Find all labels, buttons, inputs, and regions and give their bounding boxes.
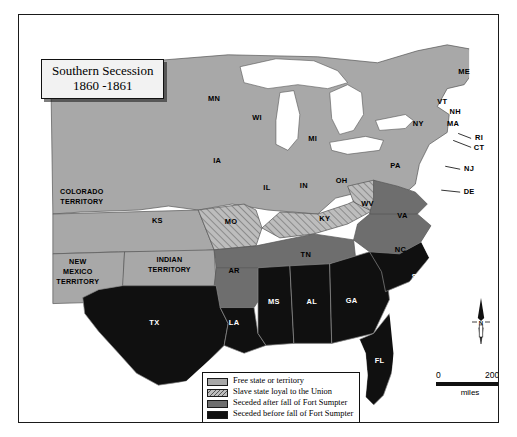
- state-label-tx: TX: [149, 318, 159, 327]
- state-label-sc: SC: [412, 272, 423, 281]
- state-label-pa: PA: [390, 161, 401, 170]
- state-label-vt: VT: [437, 97, 447, 106]
- state-label-tn: TN: [301, 250, 312, 259]
- state-label-va: VA: [397, 211, 408, 220]
- map-figure: MNWIMIIAILINOHPANYMEVTNHMARICTNJDEKS MOK…: [0, 0, 517, 437]
- legend-item-seceded-before: Seceded before fall of Fort Sumpter: [207, 409, 353, 420]
- legend-swatch-free-icon: [207, 378, 228, 386]
- legend-item-loyal: Slave state loyal to the Union: [207, 387, 353, 398]
- state-label-wv: WV: [361, 199, 374, 208]
- legend-item-seceded-after: Seceded after fall of Fort Sumpter: [207, 398, 353, 409]
- map-legend: Free state or territory Slave state loya…: [202, 372, 360, 423]
- cartography-credit: Rutgers Cartography 2000: [45, 408, 132, 415]
- compass-rose-icon: N: [470, 298, 492, 344]
- state-label-in: IN: [300, 181, 308, 190]
- scale-bar-line: [436, 382, 499, 386]
- state-label-ga: GA: [346, 296, 358, 305]
- scale-bar: 0 200 miles: [436, 370, 499, 397]
- scale-min-label: 0: [436, 370, 441, 380]
- legend-label-loyal: Slave state loyal to the Union: [233, 388, 332, 396]
- map-title-box: Southern Secession 1860 -1861: [41, 59, 164, 99]
- legend-swatch-loyal-icon: [207, 389, 228, 397]
- state-label-il: IL: [263, 183, 270, 192]
- legend-item-free: Free state or territory: [207, 376, 353, 387]
- state-label-ky: KY: [319, 214, 330, 223]
- state-label-al: AL: [307, 297, 318, 306]
- state-label-nc: NC: [395, 245, 407, 254]
- legend-label-seceded-after: Seceded after fall of Fort Sumpter: [233, 399, 347, 407]
- region-mississippi: [258, 266, 294, 346]
- map-title-line2: 1860 -1861: [52, 79, 153, 94]
- legend-swatch-seceded-before-icon: [207, 411, 228, 419]
- legend-label-free: Free state or territory: [233, 377, 304, 385]
- compass-north-label: N: [479, 320, 483, 326]
- state-label-mo: MO: [225, 217, 238, 226]
- region-free-plains: [53, 210, 214, 254]
- state-label-ar: AR: [228, 266, 240, 275]
- state-label-wi: WI: [252, 113, 262, 122]
- state-label-de: DE: [464, 187, 475, 196]
- state-label-ri: RI: [475, 133, 483, 142]
- map-frame: MNWIMIIAILINOHPANYMEVTNHMARICTNJDEKS MOK…: [18, 14, 499, 423]
- state-label-ks: KS: [152, 216, 163, 225]
- state-label-nj: NJ: [464, 164, 474, 173]
- scale-max-label: 200: [485, 370, 499, 380]
- state-label-mn: MN: [208, 94, 220, 103]
- state-label-fl: FL: [375, 356, 385, 365]
- state-label-ma: MA: [447, 119, 460, 128]
- legend-label-seceded-before: Seceded before fall of Fort Sumpter: [233, 410, 353, 418]
- map-title-line1: Southern Secession: [52, 64, 153, 79]
- state-label-ny: NY: [413, 119, 424, 128]
- state-label-ms: MS: [268, 297, 280, 306]
- state-label-ia: IA: [213, 156, 221, 165]
- scale-units-label: miles: [436, 388, 499, 397]
- territory-label-colorado-territory: COLORADOTERRITORY: [60, 188, 104, 206]
- legend-swatch-seceded-after-icon: [207, 400, 228, 408]
- state-label-me: ME: [458, 67, 470, 76]
- state-label-la: LA: [229, 318, 240, 327]
- scale-bar-numbers: 0 200: [436, 370, 499, 381]
- state-label-mi: MI: [308, 134, 317, 143]
- state-label-oh: OH: [336, 176, 348, 185]
- state-label-ct: CT: [474, 143, 485, 152]
- state-label-nh: NH: [449, 107, 460, 116]
